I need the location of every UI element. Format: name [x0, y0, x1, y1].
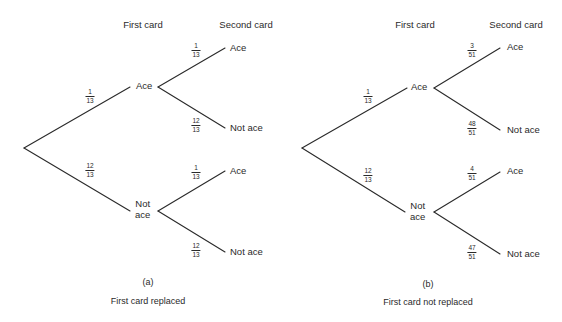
prob-a-ace-notace: 12 13	[191, 117, 200, 133]
tree-b-branches	[302, 48, 500, 254]
node-a-notace: Not ace	[135, 199, 150, 220]
branch-a-root-notace	[24, 148, 130, 211]
prob-a-notace-notace: 12 13	[191, 242, 200, 258]
tree-a-branches	[24, 48, 225, 252]
node-label-line1: Not	[135, 199, 150, 210]
prob-a-root-ace: 1 13	[86, 88, 95, 104]
node-label-line1: Not	[410, 201, 425, 212]
panel-tag-b: (b)	[423, 279, 434, 290]
panel-tag-a: (a)	[143, 277, 154, 288]
caption-b: First card not replaced	[383, 297, 473, 308]
leaf-b-notace-ace: Ace	[507, 166, 523, 177]
node-label-line2: ace	[135, 210, 150, 221]
header-first-card: First card	[123, 19, 163, 30]
prob-b-root-notace: 12 13	[363, 167, 372, 183]
node-label-line2: ace	[410, 212, 425, 223]
node-a-ace: Ace	[136, 81, 152, 92]
node-b-notace: Not ace	[410, 201, 425, 222]
leaf-a-ace-ace: Ace	[230, 43, 246, 54]
prob-a-root-notace: 12 13	[85, 162, 94, 178]
branch-b-root-ace	[302, 88, 407, 148]
prob-b-ace-notace: 48 51	[467, 120, 476, 136]
leaf-a-notace-ace: Ace	[230, 166, 246, 177]
branch-b-root-notace	[302, 148, 405, 212]
branch-a-root-ace	[24, 87, 130, 148]
prob-a-notace-ace: 1 13	[192, 164, 201, 180]
caption-a: First card replaced	[111, 296, 186, 307]
prob-b-ace-ace: 3 51	[468, 42, 477, 58]
prob-b-root-ace: 1 13	[364, 88, 373, 104]
header-second-card: Second card	[489, 19, 542, 30]
leaf-b-notace-notace: Not ace	[507, 249, 540, 260]
prob-b-notace-ace: 4 51	[468, 165, 477, 181]
header-second-card: Second card	[219, 19, 272, 30]
leaf-a-notace-notace: Not ace	[230, 247, 263, 258]
header-first-card: First card	[395, 19, 435, 30]
leaf-b-ace-ace: Ace	[507, 42, 523, 53]
prob-b-notace-notace: 47 51	[467, 244, 476, 260]
prob-a-ace-ace: 1 13	[192, 42, 201, 58]
node-b-ace: Ace	[411, 82, 427, 93]
tree-branches	[0, 0, 562, 322]
leaf-b-ace-notace: Not ace	[507, 125, 540, 136]
leaf-a-ace-notace: Not ace	[230, 123, 263, 134]
